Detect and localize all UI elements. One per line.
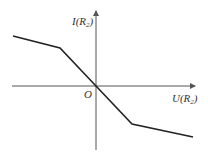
- origin-label: O: [84, 88, 92, 100]
- iu-graph: I(R2) U(R2) O: [0, 0, 208, 160]
- y-axis-label: I(R2): [71, 15, 94, 29]
- x-axis-label: U(R2): [172, 92, 198, 106]
